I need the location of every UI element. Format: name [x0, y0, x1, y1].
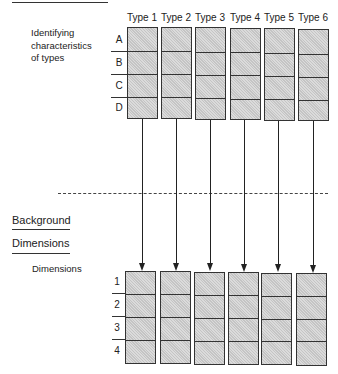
type-1-dimensions-box [125, 271, 156, 364]
cell-divider [161, 294, 190, 295]
arrow-type-6 [313, 121, 314, 266]
cell-divider [231, 52, 260, 53]
type-1-characteristics-box [127, 27, 158, 119]
cell-divider [126, 294, 155, 295]
cell-divider [128, 97, 157, 98]
cell-divider [126, 317, 155, 318]
row-label-d: D [114, 102, 124, 113]
type-3-dimensions-box [194, 272, 225, 365]
type-5-dimensions-box [261, 273, 292, 365]
cell-divider [128, 51, 157, 52]
cell-divider [229, 318, 258, 319]
cell-divider [162, 51, 191, 52]
row-divider-tick [112, 339, 125, 340]
cell-divider [126, 340, 155, 341]
cell-divider [195, 341, 224, 342]
cell-divider [196, 52, 225, 53]
type-2-dimensions-box [160, 271, 191, 364]
arrow-type-5 [278, 121, 279, 265]
cell-divider [262, 319, 291, 320]
type-3-label: Type 3 [192, 12, 228, 23]
cell-divider [231, 99, 260, 100]
cell-divider [195, 295, 224, 296]
cell-divider [265, 76, 294, 77]
row-label-1: 1 [112, 276, 122, 287]
row-divider-tick [111, 51, 127, 52]
heading-background: Background [12, 214, 71, 226]
dashed-separator [58, 193, 328, 194]
cell-divider [195, 318, 224, 319]
type-2-characteristics-box [161, 27, 192, 119]
cell-divider [162, 97, 191, 98]
dimensions-caption: Dimensions [32, 263, 82, 274]
row-label-b: B [114, 57, 124, 68]
cell-divider [196, 98, 225, 99]
arrowhead-icon [275, 264, 281, 272]
type-6-characteristics-box [298, 29, 329, 121]
type-4-characteristics-box [230, 28, 261, 120]
arrow-type-3 [210, 120, 211, 264]
cell-divider [297, 296, 326, 297]
row-divider-tick [111, 74, 127, 75]
row-label-3: 3 [112, 322, 122, 333]
cell-divider [229, 295, 258, 296]
cell-divider [262, 341, 291, 342]
row-label-a: A [114, 34, 124, 45]
type-5-characteristics-box [264, 28, 295, 121]
type-2-label: Type 2 [158, 12, 194, 23]
arrowhead-icon [139, 263, 145, 271]
type-6-label: Type 6 [295, 12, 331, 23]
arrowhead-icon [310, 265, 316, 273]
cell-divider [299, 100, 328, 101]
cell-divider [162, 74, 191, 75]
type-5-label: Type 5 [261, 12, 297, 23]
row-label-c: C [114, 80, 124, 91]
arrowhead-icon [207, 263, 213, 271]
cell-divider [297, 341, 326, 342]
arrowhead-icon [241, 264, 247, 272]
row-divider-tick [112, 316, 125, 317]
row-label-2: 2 [112, 299, 122, 310]
type-4-label: Type 4 [227, 12, 263, 23]
arrow-type-4 [244, 120, 245, 265]
type-6-dimensions-box [296, 273, 327, 366]
arrow-type-1 [142, 119, 143, 264]
caption-line: of types [31, 52, 92, 65]
cell-divider [128, 74, 157, 75]
row-divider-tick [112, 293, 125, 294]
cell-divider [161, 317, 190, 318]
identifying-characteristics-caption: Identifying characteristics of types [31, 27, 92, 65]
cell-divider [299, 77, 328, 78]
cell-divider [229, 341, 258, 342]
cell-divider [265, 99, 294, 100]
top-rule [12, 2, 108, 3]
caption-line: characteristics [31, 40, 92, 53]
arrow-type-2 [176, 119, 177, 264]
cell-divider [297, 319, 326, 320]
caption-line: Identifying [31, 27, 92, 40]
heading-underline [12, 253, 70, 254]
heading-dimensions: Dimensions [12, 237, 69, 249]
type-1-label: Type 1 [124, 12, 160, 23]
row-divider-tick [111, 97, 127, 98]
cell-divider [299, 54, 328, 55]
arrowhead-icon [173, 263, 179, 271]
cell-divider [265, 53, 294, 54]
cell-divider [262, 296, 291, 297]
type-3-characteristics-box [195, 27, 226, 120]
cell-divider [161, 340, 190, 341]
heading-underline [12, 229, 70, 230]
cell-divider [196, 75, 225, 76]
cell-divider [231, 75, 260, 76]
row-label-4: 4 [112, 345, 122, 356]
type-4-dimensions-box [228, 272, 259, 365]
